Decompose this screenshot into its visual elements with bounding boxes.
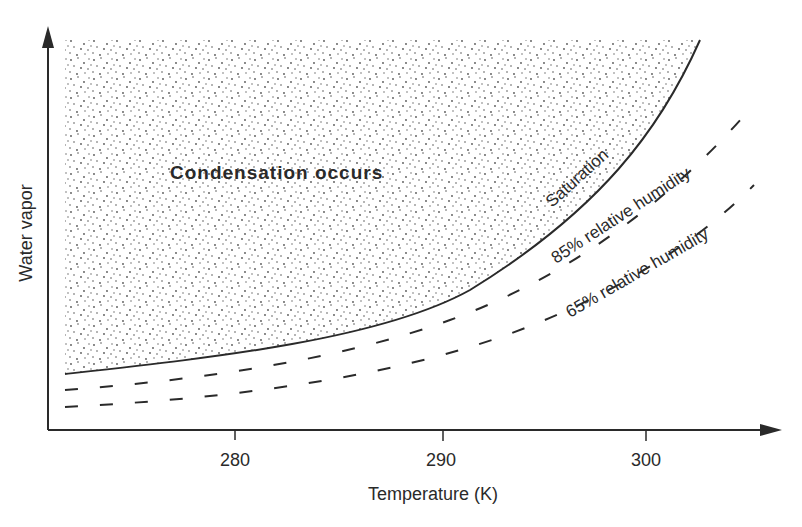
x-axis (48, 424, 782, 436)
condensation-label: Condensation occurs (170, 162, 383, 183)
x-tick-290: 290 (426, 450, 456, 470)
y-axis (42, 26, 54, 430)
y-axis-arrow-icon (42, 26, 54, 48)
humidity-diagram: 280 290 300 Temperature (K) Water vapor … (0, 0, 802, 527)
x-axis-arrow-icon (760, 424, 782, 436)
x-axis-title: Temperature (K) (368, 484, 498, 504)
condensation-region (60, 38, 705, 378)
x-ticks: 280 290 300 (220, 430, 661, 470)
x-tick-300: 300 (631, 450, 661, 470)
y-axis-title: Water vapor (16, 184, 36, 281)
x-tick-280: 280 (220, 450, 250, 470)
